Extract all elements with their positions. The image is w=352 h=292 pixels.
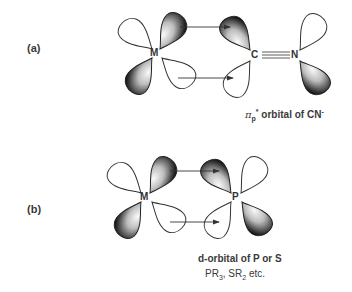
pi-subscript: p: [252, 115, 256, 122]
orbital-diagram-canvas: [0, 0, 352, 292]
pr-text: PR: [205, 268, 219, 279]
atom-carbon: C: [251, 49, 258, 60]
atom-phosphorus: P: [232, 191, 239, 202]
lobe-open-icon: [154, 48, 200, 94]
panel-a-label: (a): [27, 42, 40, 54]
panel-b-label: (b): [27, 203, 41, 215]
triple-bond: [262, 52, 290, 58]
atom-metal-b: M: [140, 191, 148, 202]
caption-a-text: orbital of CN: [259, 109, 322, 120]
lobe-open-icon: [199, 196, 242, 243]
atom-nitrogen: N: [291, 49, 298, 60]
lobe-shaded-icon: [109, 196, 152, 243]
caption-b-line2: PR3, SR2 etc.: [205, 268, 265, 281]
sr-text: , SR: [223, 268, 242, 279]
etc-text: etc.: [246, 268, 265, 279]
pi-symbol: π: [245, 109, 252, 120]
lobe-open-icon: [144, 192, 190, 238]
atom-metal-a: M: [150, 47, 158, 58]
charge-superscript: -: [321, 108, 323, 115]
caption-b-line1: d-orbital of P or S: [198, 253, 282, 264]
caption-a: πp* orbital of CN-: [245, 108, 324, 122]
lobe-shaded-icon: [120, 52, 163, 99]
lobe-shaded-icon: [233, 194, 276, 241]
